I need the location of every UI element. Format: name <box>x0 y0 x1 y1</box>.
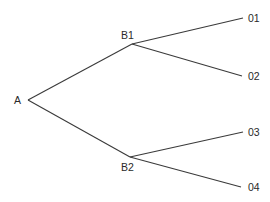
tree-labels: AB1B201020304 <box>14 12 260 193</box>
node-label-a: A <box>14 94 21 106</box>
node-label-b1: B1 <box>121 29 134 41</box>
node-label-03: 03 <box>248 126 260 138</box>
node-label-b2: B2 <box>121 161 134 173</box>
node-label-04: 04 <box>248 181 260 193</box>
edge-b2-04 <box>130 157 241 187</box>
tree-edges <box>28 18 243 187</box>
edge-b1-01 <box>132 18 243 44</box>
node-label-02: 02 <box>248 70 260 82</box>
edge-a-b1 <box>28 44 132 100</box>
node-label-01: 01 <box>248 12 260 24</box>
edge-b1-02 <box>132 44 242 76</box>
edge-a-b2 <box>28 100 130 157</box>
tree-diagram: AB1B201020304 <box>0 0 270 202</box>
edge-b2-03 <box>130 132 243 157</box>
